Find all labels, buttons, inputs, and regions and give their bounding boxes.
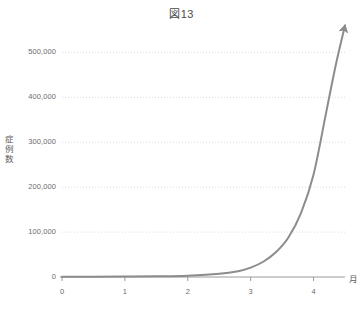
chart-figure: 図13 症例数 月 0100,000200,000300,000400,0005… bbox=[0, 0, 363, 310]
gridlines bbox=[62, 52, 345, 232]
chart-plot-area bbox=[0, 0, 363, 310]
data-series bbox=[62, 26, 345, 277]
series-line bbox=[62, 26, 345, 277]
